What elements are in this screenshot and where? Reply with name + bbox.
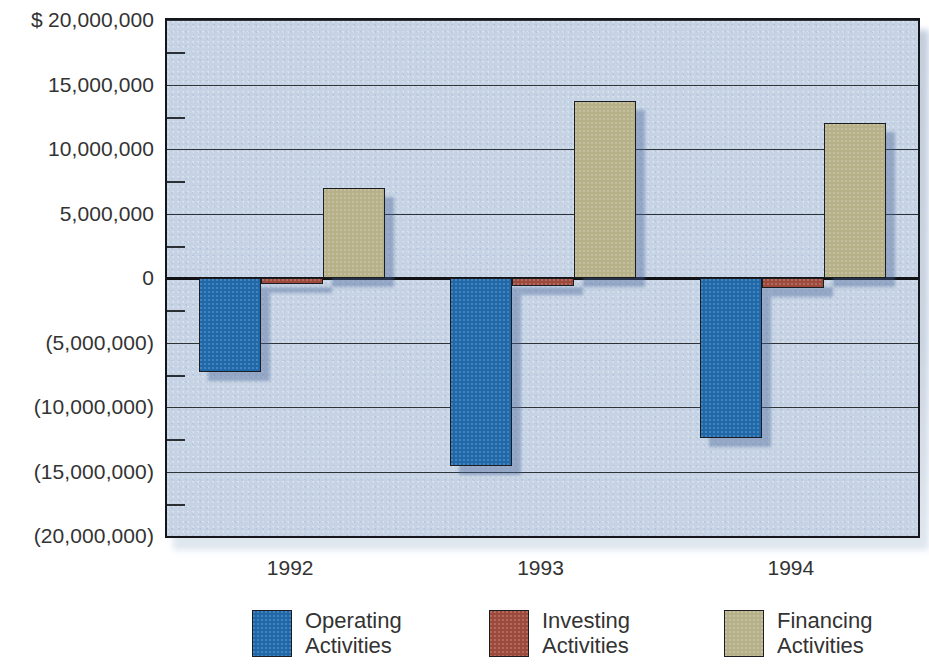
legend-label-line2: Activities [305, 633, 402, 658]
y-tick-label: (20,000,000) [34, 524, 154, 548]
legend-label-line1: Investing [542, 608, 630, 633]
y-tick-label: (10,000,000) [34, 395, 154, 419]
minor-tick [167, 117, 185, 119]
bar-1992-financing-activities [323, 188, 385, 278]
bar-1994-investing-activities [762, 278, 824, 288]
bar-1994-operating-activities [700, 278, 762, 438]
legend-swatch-investing [489, 610, 529, 657]
minor-tick [167, 504, 185, 506]
bar-shadow [771, 287, 833, 297]
y-tick-label: (5,000,000) [45, 331, 154, 355]
minor-tick [167, 246, 185, 248]
bar-shadow [521, 287, 583, 295]
cash-flow-bar-chart: $20,000,00015,000,00010,000,0005,000,000… [0, 0, 929, 668]
bar-1993-financing-activities [574, 101, 636, 278]
y-tick-label: $20,000,000 [31, 8, 154, 32]
legend-label: FinancingActivities [777, 608, 872, 658]
minor-tick [167, 181, 185, 183]
gridline [167, 214, 918, 215]
legend-swatch-operating [252, 610, 292, 657]
y-tick-label: 0 [142, 266, 154, 290]
y-tick-label: 10,000,000 [48, 137, 154, 161]
bar-1993-operating-activities [450, 278, 512, 466]
bar-1993-investing-activities [512, 278, 574, 286]
legend-label: InvestingActivities [542, 608, 630, 658]
legend-item-investing[interactable]: InvestingActivities [489, 608, 630, 658]
x-axis: 199219931994 [165, 548, 920, 584]
bar-1994-financing-activities [824, 123, 886, 278]
legend-item-operating[interactable]: OperatingActivities [252, 608, 402, 658]
legend-swatch-financing [724, 610, 764, 657]
minor-tick [167, 439, 185, 441]
y-tick-value: 20,000,000 [48, 8, 154, 31]
legend-label-line1: Financing [777, 608, 872, 633]
minor-tick [167, 375, 185, 377]
y-tick-label: 15,000,000 [48, 73, 154, 97]
bar-1992-investing-activities [261, 278, 323, 284]
legend-label: OperatingActivities [305, 608, 402, 658]
gridline [167, 343, 918, 344]
legend-label-line2: Activities [542, 633, 630, 658]
y-tick-label: 5,000,000 [60, 202, 154, 226]
currency-symbol: $ [31, 8, 43, 31]
gridline [167, 472, 918, 473]
bar-1992-operating-activities [199, 278, 261, 372]
legend-label-line2: Activities [777, 633, 872, 658]
y-tick-label: (15,000,000) [34, 460, 154, 484]
y-axis: $20,000,00015,000,00010,000,0005,000,000… [0, 0, 162, 560]
chart-legend: OperatingActivitiesInvestingActivitiesFi… [0, 603, 929, 668]
bar-shadow [270, 287, 332, 293]
x-tick-label-1993: 1993 [517, 556, 564, 580]
legend-label-line1: Operating [305, 608, 402, 633]
minor-tick [167, 52, 185, 54]
gridline [167, 149, 918, 150]
gridline [167, 407, 918, 408]
x-tick-label-1994: 1994 [767, 556, 814, 580]
legend-item-financing[interactable]: FinancingActivities [724, 608, 872, 658]
gridline [167, 85, 918, 86]
x-tick-label-1992: 1992 [267, 556, 314, 580]
plot-area [165, 18, 920, 538]
gridline [167, 20, 918, 21]
minor-tick [167, 310, 185, 312]
